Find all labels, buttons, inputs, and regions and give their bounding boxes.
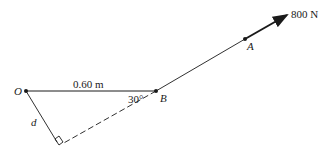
right-angle-marker — [55, 136, 63, 145]
force-moment-diagram: O B A 800 N 0.60 m 30° d — [0, 0, 329, 152]
label-angle: 30° — [128, 93, 143, 105]
line-of-action — [156, 39, 245, 91]
point-O — [24, 89, 28, 93]
point-B — [154, 89, 158, 93]
label-O: O — [14, 85, 22, 97]
label-B: B — [160, 92, 167, 104]
force-arrow — [245, 15, 287, 39]
label-d: d — [31, 116, 37, 128]
label-distance-OB: 0.60 m — [73, 78, 104, 90]
label-A: A — [246, 40, 254, 52]
label-force: 800 N — [291, 8, 318, 20]
